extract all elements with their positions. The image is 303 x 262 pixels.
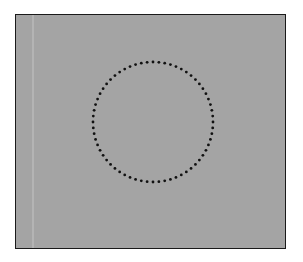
circle-dot	[152, 181, 155, 184]
circle-dot	[92, 126, 95, 129]
circle-dot	[185, 71, 188, 74]
circle-dot	[99, 149, 102, 152]
circle-dot	[123, 174, 126, 177]
circle-dot	[205, 149, 208, 152]
circle-dot	[102, 87, 105, 90]
circle-dot	[211, 126, 214, 129]
circle-dot	[180, 174, 183, 177]
circle-dot	[129, 65, 132, 68]
circle-dot	[93, 132, 96, 135]
circle-dot	[198, 159, 201, 162]
circle-dot	[207, 144, 210, 147]
circle-dot	[157, 180, 160, 183]
circle-dot	[210, 109, 213, 112]
circle-dot	[92, 121, 95, 124]
circle-dot	[114, 74, 117, 77]
circle-dot	[169, 63, 172, 66]
circle-dot	[99, 92, 102, 95]
circle-dot	[118, 71, 121, 74]
circle-dot	[94, 138, 97, 141]
circle-dot	[209, 103, 212, 106]
circle-dot	[114, 167, 117, 170]
circle-dot	[211, 115, 214, 118]
circle-dot	[205, 92, 208, 95]
circle-dot	[140, 62, 143, 65]
circle-dot	[140, 179, 143, 182]
circle-dot	[175, 176, 178, 179]
circle-dot	[163, 179, 166, 182]
circle-dot	[157, 61, 160, 64]
circle-dot	[201, 87, 204, 90]
circle-dot	[207, 98, 210, 101]
circle-dot	[93, 109, 96, 112]
dotted-circle	[92, 61, 215, 184]
circle-dot	[109, 78, 112, 81]
circle-dot	[134, 63, 137, 66]
circle-dot	[109, 163, 112, 166]
circle-dot	[102, 154, 105, 157]
circle-dot	[105, 83, 108, 86]
circle-dot	[105, 159, 108, 162]
circle-dot	[190, 74, 193, 77]
circle-dot	[194, 163, 197, 166]
circle-dot	[96, 98, 99, 101]
circle-dot	[209, 138, 212, 141]
circle-dot	[123, 68, 126, 71]
circle-dot	[212, 121, 215, 124]
circle-dot	[194, 78, 197, 81]
circle-dot	[198, 83, 201, 86]
circle-dot	[210, 132, 213, 135]
circle-dot	[94, 103, 97, 106]
circle-dot	[169, 178, 172, 181]
circle-dot	[92, 115, 95, 118]
circle-dot	[146, 61, 149, 64]
circle-dot	[190, 167, 193, 170]
circle-dot	[180, 68, 183, 71]
circle-dot	[163, 62, 166, 65]
dotted-circle-layer	[0, 0, 303, 262]
circle-dot	[175, 65, 178, 68]
circle-dot	[134, 178, 137, 181]
circle-dot	[146, 180, 149, 183]
circle-dot	[118, 170, 121, 173]
circle-dot	[96, 144, 99, 147]
circle-dot	[185, 170, 188, 173]
circle-dot	[201, 154, 204, 157]
circle-dot	[129, 176, 132, 179]
circle-dot	[152, 61, 155, 64]
